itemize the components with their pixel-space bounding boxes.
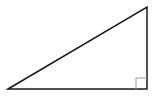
figure-canvas bbox=[0, 0, 159, 97]
right-triangle-figure bbox=[0, 0, 159, 97]
